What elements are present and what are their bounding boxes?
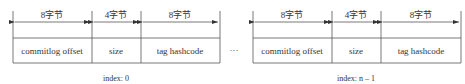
consumequeue-entry-diagram: 8字节 4字节 8字节 commitlog offset size tag ha… xyxy=(0,0,465,84)
field-name: tag hashcode xyxy=(157,46,204,56)
field-size-label: 4字节 xyxy=(345,9,368,20)
field-size-label: 8字节 xyxy=(410,9,433,20)
field-name: commitlog offset xyxy=(21,46,83,56)
ellipsis: ··· xyxy=(230,45,239,55)
index-label: index: 0 xyxy=(103,74,129,83)
field-size-label: 8字节 xyxy=(41,9,64,20)
field-name: size xyxy=(349,46,363,56)
field-size-label: 8字节 xyxy=(169,9,192,20)
field-size-label: 4字节 xyxy=(105,9,128,20)
field-name: commitlog offset xyxy=(261,46,323,56)
field-size-label: 8字节 xyxy=(281,9,304,20)
field-name: tag hashcode xyxy=(398,46,445,56)
field-name: size xyxy=(109,46,123,56)
index-label: index: n – 1 xyxy=(337,74,375,83)
